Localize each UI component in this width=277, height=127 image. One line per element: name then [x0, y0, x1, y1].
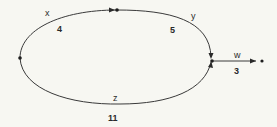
node-top — [115, 8, 119, 12]
edge-w-label: w — [233, 50, 241, 60]
edge-z-weight: 11 — [108, 113, 118, 123]
edge-w-weight: 3 — [234, 66, 239, 76]
edge-z-label: z — [113, 93, 118, 103]
edge-y-weight: 5 — [170, 25, 175, 35]
edge-x — [20, 10, 117, 58]
graph-diagram: x 4 y 5 z 11 w 3 — [0, 0, 277, 127]
node-left — [18, 56, 22, 60]
edge-y-arrowhead — [209, 53, 214, 59]
edge-y — [117, 10, 211, 57]
node-sink — [260, 59, 263, 62]
node-right — [210, 59, 214, 63]
edge-w-arrowhead — [250, 59, 256, 64]
edge-y-label: y — [191, 11, 196, 21]
edge-x-weight: 4 — [57, 24, 62, 34]
edge-x-arrowhead — [109, 8, 115, 13]
edge-x-label: x — [45, 8, 50, 18]
